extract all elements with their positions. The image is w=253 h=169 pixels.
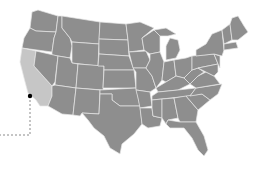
state-florida bbox=[166, 120, 208, 156]
leader-line bbox=[0, 96, 30, 135]
location-dot-icon bbox=[28, 94, 32, 98]
state-maine bbox=[230, 16, 248, 40]
state-washington bbox=[30, 10, 58, 32]
state-new-york bbox=[196, 30, 224, 56]
state-new-mexico bbox=[73, 88, 100, 116]
state-michigan bbox=[166, 38, 180, 60]
state-kansas bbox=[103, 70, 136, 88]
state-north-dakota bbox=[99, 22, 128, 40]
state-iowa bbox=[129, 51, 150, 68]
state-colorado bbox=[76, 64, 104, 90]
states-east bbox=[152, 16, 248, 156]
us-map bbox=[0, 0, 253, 169]
state-south-dakota bbox=[99, 39, 129, 56]
state-oregon bbox=[22, 28, 56, 52]
state-arizona bbox=[48, 85, 76, 115]
state-wyoming bbox=[72, 42, 99, 66]
state-mississippi bbox=[152, 99, 162, 118]
states-west bbox=[20, 10, 104, 116]
